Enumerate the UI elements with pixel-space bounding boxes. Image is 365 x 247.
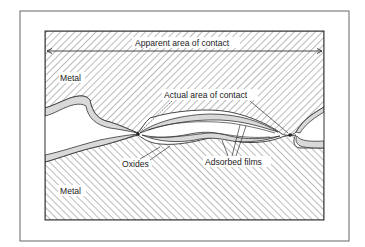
actual-area-label: Actual area of contact <box>164 90 248 100</box>
oxides-label: Oxides <box>122 159 149 169</box>
contact-point-right <box>288 133 292 137</box>
bottom-oxide-layer-right <box>296 136 324 148</box>
adsorbed-films-label: Adsorbed films <box>205 157 262 167</box>
metal-top-label: Metal <box>60 73 81 83</box>
contact-point-left <box>136 132 140 136</box>
contact-diagram: Apparent area of contact Metal Actual ar… <box>0 0 365 247</box>
apparent-area-label: Apparent area of contact <box>135 38 230 48</box>
metal-bottom-label: Metal <box>60 186 81 196</box>
